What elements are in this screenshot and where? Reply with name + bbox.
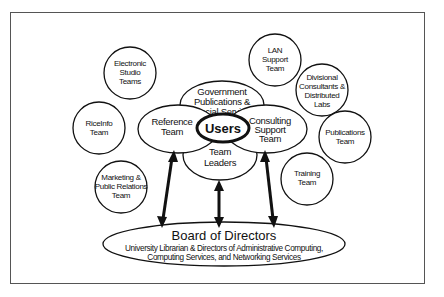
board-subtitle: Computing Services, and Networking Servi… — [147, 253, 301, 262]
node-users: Users — [197, 114, 249, 142]
node-label: Team — [90, 128, 109, 137]
node-riceinfo: RiceInfo Team — [73, 102, 125, 154]
node-label: LAN — [268, 46, 283, 55]
board-title: Board of Directors — [172, 228, 277, 243]
users-label: Users — [205, 121, 241, 136]
node-electronic-studio: Electronic Studio Teams — [104, 47, 156, 99]
node-label: Team — [112, 191, 131, 200]
node-label: Public Relations — [95, 182, 148, 191]
node-label: Team — [161, 126, 183, 137]
node-label: Studio — [120, 68, 142, 77]
arrow-reference-board — [157, 150, 178, 228]
node-label: Training — [294, 169, 320, 178]
node-publications: Publications Team — [319, 111, 371, 163]
node-label: Support — [262, 55, 289, 64]
node-training: Training Team — [281, 153, 333, 205]
node-label: Team — [259, 133, 281, 144]
node-label: Team — [266, 64, 285, 73]
node-label: RiceInfo — [86, 119, 114, 128]
board-subtitle: University Librarian & Directors of Admi… — [125, 244, 323, 253]
node-divisional: Divisional Consultants & Distributed Lab… — [296, 64, 348, 116]
node-label: Marketing & — [101, 173, 141, 182]
node-marketing: Marketing & Public Relations Team — [95, 161, 148, 213]
arrow-consulting-board — [260, 150, 278, 228]
node-label: Divisional — [306, 73, 338, 82]
node-label: Team — [298, 178, 317, 187]
node-lan-support: LAN Support Team — [249, 34, 301, 86]
node-label: Electronic — [114, 59, 146, 68]
org-diagram: Electronic Studio Teams RiceInfo Team Ma… — [0, 0, 444, 297]
node-label: Distributed — [305, 91, 340, 100]
node-label: Teams — [119, 77, 141, 86]
node-label: Team — [209, 146, 231, 157]
arrow-leaders-board — [214, 180, 224, 228]
node-board: Board of Directors University Librarian … — [103, 222, 345, 266]
node-label: Publications — [325, 128, 365, 137]
node-label: Leaders — [204, 157, 237, 168]
node-label: Consultants & — [299, 82, 346, 91]
node-label: Labs — [314, 100, 330, 109]
node-label: Team — [336, 137, 355, 146]
